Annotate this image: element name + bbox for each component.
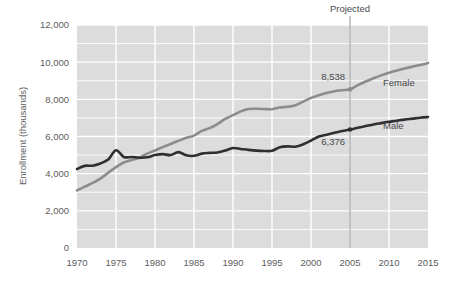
x-tick-2015: 2015 (417, 257, 438, 268)
y-tick-12000: 12,000 (40, 19, 69, 30)
y-axis-title: Enrollment (thousands) (17, 87, 28, 185)
x-tick-2010: 2010 (378, 257, 399, 268)
female-value-label: 8,538 (321, 71, 345, 82)
y-tick-0: 0 (64, 242, 69, 253)
x-tick-1975: 1975 (105, 257, 126, 268)
female-marker-2005 (348, 87, 353, 92)
x-tick-2000: 2000 (300, 257, 321, 268)
y-axis-tick-labels: 02,0004,0006,0008,00010,00012,000 (40, 19, 69, 253)
x-tick-1990: 1990 (222, 257, 243, 268)
male-series-label: Male (383, 120, 404, 131)
y-tick-10000: 10,000 (40, 57, 69, 68)
y-tick-6000: 6,000 (45, 131, 69, 142)
y-tick-4000: 4,000 (45, 168, 69, 179)
projected-divider-label: Projected (330, 3, 370, 14)
chart-canvas: 02,0004,0006,0008,00010,00012,000 197019… (0, 0, 451, 287)
female-series-label: Female (383, 77, 415, 88)
x-tick-2005: 2005 (339, 257, 360, 268)
y-tick-8000: 8,000 (45, 94, 69, 105)
male-marker-2005 (348, 127, 353, 132)
x-tick-1980: 1980 (144, 257, 165, 268)
x-tick-1995: 1995 (261, 257, 282, 268)
x-axis-tick-labels: 1970197519801985199019952000200520102015 (66, 257, 438, 268)
y-tick-2000: 2,000 (45, 205, 69, 216)
male-value-label: 6,376 (321, 136, 345, 147)
x-tick-1985: 1985 (183, 257, 204, 268)
enrollment-line-chart: 02,0004,0006,0008,00010,00012,000 197019… (0, 0, 451, 287)
x-tick-1970: 1970 (66, 257, 87, 268)
